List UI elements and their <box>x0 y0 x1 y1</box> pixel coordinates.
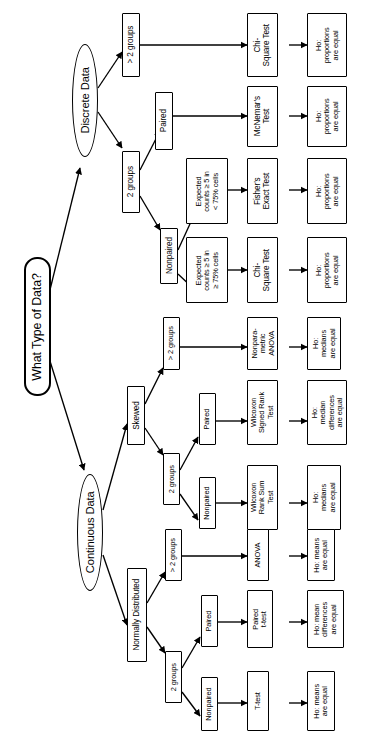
node-outcome-means-2[interactable]: Ho: means are equal <box>307 671 335 731</box>
node-skewed-nonpaired[interactable]: Nonpaired <box>199 477 216 529</box>
node-nd-paired[interactable]: Paired <box>201 595 218 647</box>
node-expected-counts-lt75[interactable]: Expected counts ≥ 5 in < 75% cells <box>186 158 228 224</box>
node-skewed-gt2groups-label: > 2 groups <box>167 326 175 360</box>
node-test-fisher-exact[interactable]: Fisher's Exact Test <box>247 158 278 224</box>
node-test-chi-square-bottom-label: Chi- Square Test <box>253 249 271 291</box>
node-test-chi-square-bottom[interactable]: Chi- Square Test <box>247 237 278 303</box>
node-nd-2groups[interactable]: 2 groups <box>165 651 182 703</box>
node-continuous-data-label: Continuous Data <box>84 492 97 574</box>
node-outcome-medians-1[interactable]: Ho: medians are equal <box>307 317 341 370</box>
node-outcome-proportions-4[interactable]: Ho: proportions are equal <box>307 237 347 303</box>
node-skewed[interactable]: Skewed <box>127 386 145 445</box>
node-discrete-2groups[interactable]: 2 groups <box>122 151 140 213</box>
node-outcome-proportions-2-label: Ho: proportions are equal <box>315 99 340 135</box>
node-test-wilcoxon-signed-rank-label: Wilcoxon Signed Rank Test <box>250 392 275 433</box>
node-expected-counts-lt75-label: Expected counts ≥ 5 in < 75% cells <box>195 171 220 212</box>
node-nd-2groups-label: 2 groups <box>169 663 177 691</box>
node-outcome-medians-1-label: Ho: medians are equal <box>312 329 337 359</box>
node-root[interactable]: What Type of Data? <box>24 257 51 396</box>
node-discrete-nonpaired[interactable]: Nonpaired <box>160 228 178 284</box>
node-test-nonparametric-anova[interactable]: Nonpara- metric ANOVA <box>247 317 278 370</box>
node-test-mcnemar[interactable]: McNemar's Test <box>247 86 278 147</box>
node-test-anova[interactable]: ANOVA <box>247 529 269 581</box>
node-discrete-gt2groups-label: > 2 groups <box>126 26 135 64</box>
node-test-wilcoxon-rank-sum-label: Wilcoxon Rank Sum Test <box>250 481 275 515</box>
node-outcome-proportions-3-label: Ho: proportions are equal <box>315 173 340 209</box>
node-discrete-data-label: Discrete Data <box>79 67 92 133</box>
node-nd-nonpaired[interactable]: Nonpaired <box>201 677 218 731</box>
node-expected-counts-ge75[interactable]: Expected counts ≥ 5 in ≥ 75% cells <box>186 237 228 303</box>
node-outcome-mean-differences-label: Ho: mean differences are equal <box>313 602 338 637</box>
node-skewed-2groups-label: 2 groups <box>167 465 175 493</box>
node-outcome-proportions-4-label: Ho: proportions are equal <box>315 252 340 288</box>
node-test-t-test-label: T-test <box>254 692 262 710</box>
node-skewed-gt2groups[interactable]: > 2 groups <box>163 317 180 370</box>
node-nd-gt2groups[interactable]: > 2 groups <box>165 529 182 581</box>
node-normally-distributed[interactable]: Normally Distributed <box>127 568 147 662</box>
node-test-chi-square-top-label: Chi- Square Test <box>253 24 271 66</box>
node-outcome-means-2-label: Ho: means are equal <box>313 684 330 719</box>
flowchart-canvas: What Type of Data? Discrete Data Continu… <box>0 0 370 744</box>
node-outcome-medians-2-label: Ho: medians are equal <box>312 483 337 513</box>
node-test-t-test[interactable]: T-test <box>247 671 269 731</box>
node-outcome-proportions-3[interactable]: Ho: proportions are equal <box>307 158 347 224</box>
node-test-wilcoxon-rank-sum[interactable]: Wilcoxon Rank Sum Test <box>247 465 278 530</box>
node-outcome-proportions-1[interactable]: Ho: proportions are equal <box>307 13 347 77</box>
node-test-paired-t-test-label: Paired t-test <box>252 609 269 630</box>
node-outcome-means-1[interactable]: Ho: means are equal <box>307 529 335 581</box>
node-discrete-paired-label: Paired <box>159 109 168 132</box>
node-nd-gt2groups-label: > 2 groups <box>169 538 177 572</box>
node-skewed-label: Skewed <box>131 401 140 430</box>
node-test-chi-square-top[interactable]: Chi- Square Test <box>247 13 278 77</box>
node-outcome-median-differences-label: Ho: median differences are equal <box>310 395 343 430</box>
node-discrete-gt2groups[interactable]: > 2 groups <box>122 13 140 77</box>
node-test-wilcoxon-signed-rank[interactable]: Wilcoxon Signed Rank Test <box>247 380 278 445</box>
node-expected-counts-ge75-label: Expected counts ≥ 5 in ≥ 75% cells <box>195 250 220 291</box>
node-discrete-paired[interactable]: Paired <box>155 92 173 150</box>
node-outcome-proportions-1-label: Ho: proportions are equal <box>315 27 340 63</box>
node-test-fisher-exact-label: Fisher's Exact Test <box>253 173 271 210</box>
node-root-label: What Type of Data? <box>31 273 45 380</box>
node-test-nonparametric-anova-label: Nonpara- metric ANOVA <box>250 328 275 358</box>
node-skewed-paired[interactable]: Paired <box>199 393 216 445</box>
node-skewed-2groups[interactable]: 2 groups <box>163 453 180 505</box>
node-outcome-means-1-label: Ho: means are equal <box>313 538 330 573</box>
node-skewed-paired-label: Paired <box>203 409 211 430</box>
node-continuous-data[interactable]: Continuous Data <box>77 474 103 591</box>
node-outcome-median-differences[interactable]: Ho: median differences are equal <box>307 380 347 445</box>
node-discrete-data[interactable]: Discrete Data <box>72 44 98 157</box>
node-test-anova-label: ANOVA <box>254 543 262 568</box>
node-discrete-nonpaired-label: Nonpaired <box>164 238 173 275</box>
node-skewed-nonpaired-label: Nonpaired <box>203 486 211 519</box>
node-nd-nonpaired-label: Nonpaired <box>205 687 213 720</box>
node-nd-paired-label: Paired <box>205 611 213 632</box>
node-outcome-medians-2[interactable]: Ho: medians are equal <box>307 465 341 530</box>
node-normally-distributed-label: Normally Distributed <box>132 579 141 651</box>
node-test-paired-t-test[interactable]: Paired t-test <box>247 590 273 648</box>
node-test-mcnemar-label: McNemar's Test <box>253 96 271 136</box>
node-outcome-mean-differences[interactable]: Ho: mean differences are equal <box>307 590 344 648</box>
node-discrete-2groups-label: 2 groups <box>126 166 135 197</box>
node-outcome-proportions-2[interactable]: Ho: proportions are equal <box>307 86 347 147</box>
